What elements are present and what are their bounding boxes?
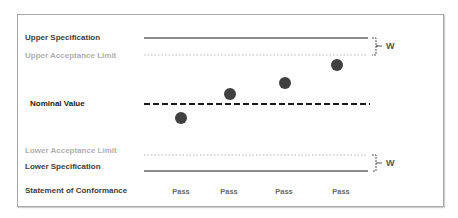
measurement-dot-3: [279, 77, 291, 89]
result-3: Pass: [275, 187, 293, 196]
conformance-diagram: [0, 0, 458, 218]
measurement-dot-1: [175, 112, 187, 124]
lower-w-bracket: [372, 155, 376, 171]
measurement-dot-4: [331, 59, 343, 71]
measurement-dot-2: [224, 88, 236, 100]
result-1: Pass: [172, 187, 190, 196]
lower-w-label: W: [386, 158, 395, 168]
upper-w-label: W: [386, 41, 395, 51]
result-2: Pass: [220, 187, 238, 196]
result-4: Pass: [332, 187, 350, 196]
